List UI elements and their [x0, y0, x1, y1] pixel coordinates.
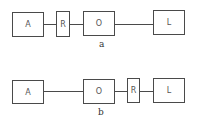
box-label: R — [60, 20, 66, 29]
box-l: L — [153, 10, 185, 35]
box-l: L — [153, 78, 185, 103]
caption-b: b — [98, 107, 104, 117]
box-a: A — [12, 80, 44, 104]
box-r: R — [56, 11, 70, 37]
box-r: R — [127, 78, 140, 103]
box-label: L — [167, 86, 171, 95]
box-label: O — [96, 87, 102, 96]
box-label: O — [96, 19, 102, 28]
box-a: A — [12, 12, 44, 37]
box-label: A — [25, 20, 30, 29]
box-label: L — [167, 18, 171, 27]
box-o: O — [83, 11, 115, 36]
box-label: A — [25, 88, 30, 97]
box-label: R — [131, 86, 137, 95]
box-o: O — [83, 79, 115, 104]
caption-a: a — [99, 39, 104, 49]
